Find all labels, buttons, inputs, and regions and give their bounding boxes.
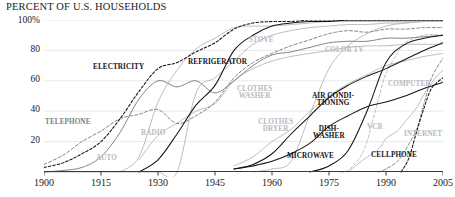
x-axis-tick-1930: 1930 (138, 177, 178, 188)
x-axis-tick-1915: 1915 (81, 177, 121, 188)
series-label-internet: INTERNET (404, 131, 442, 138)
series-label-telephone: TELEPHONE (45, 119, 91, 126)
x-axis-tick-1900: 1900 (24, 177, 64, 188)
series-label-microwave: MICROWAVE (287, 153, 334, 160)
series-label-clotheswasher: CLOTHESWASHER (237, 86, 272, 101)
series-label-clothesdryer: CLOTHESDRYER (258, 119, 293, 134)
chart-root: PERCENT OF U.S. HOUSEHOLDS 100% 80 60 40… (0, 0, 455, 197)
x-axis-tick-1945: 1945 (195, 177, 235, 188)
series-label-stove: STOVE (249, 37, 274, 44)
x-axis-tick-1960: 1960 (252, 177, 292, 188)
series-label-auto: AUTO (96, 155, 117, 162)
y-axis-tick-100: 100% (0, 15, 40, 25)
series-label-computer: COMPUTER (388, 81, 431, 88)
series-line-radio (120, 21, 443, 172)
x-axis-tick-1975: 1975 (309, 177, 349, 188)
series-label-dishwasher: DISH-WASHER (313, 126, 345, 141)
y-axis-tick-80: 80 (0, 44, 40, 54)
y-axis-tick-40: 40 (0, 104, 40, 114)
series-label-aircon: AIR CONDI-TIONING (312, 93, 354, 108)
chart-title: PERCENT OF U.S. HOUSEHOLDS (6, 1, 167, 12)
series-line-refrigerator (139, 20, 443, 172)
y-axis-tick-60: 60 (0, 74, 40, 84)
y-axis-tick-20: 20 (0, 135, 40, 145)
series-label-electricity: ELECTRICITY (93, 64, 144, 71)
series-label-refrigerator: REFRIGERATOR (188, 59, 247, 66)
series-label-vcr: VCR (367, 124, 383, 131)
x-axis-tick-2005: 2005 (423, 177, 455, 188)
series-label-colortv: COLOR TV (325, 47, 364, 54)
series-label-cellphone: CELLPHONE (371, 152, 417, 159)
x-axis-tick-1990: 1990 (366, 177, 406, 188)
series-label-radio: RADIO (141, 130, 165, 137)
